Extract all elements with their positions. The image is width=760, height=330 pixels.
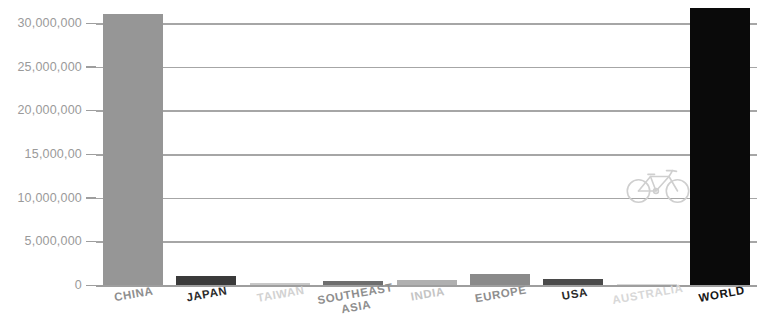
y-axis-tick-label: 5,000,000: [25, 233, 82, 249]
y-axis-tick-mark: [86, 285, 96, 287]
bar: [103, 14, 163, 285]
plot-area: [96, 0, 757, 330]
y-axis-tick-mark: [86, 110, 96, 112]
y-axis-tick-mark: [86, 241, 96, 243]
y-axis-tick-label: 15,000,00: [25, 146, 82, 162]
y-axis-tick-mark: [86, 154, 96, 156]
x-axis-labels: CHINAJAPANTAIWANSOUTHEAST ASIAINDIAEUROP…: [96, 288, 757, 330]
y-axis-tick: 0: [0, 277, 96, 293]
y-axis-tick: 25,000,000: [0, 59, 96, 75]
x-axis-label: SOUTHEAST ASIA: [317, 282, 394, 320]
y-axis-tick-label: 25,000,000: [17, 59, 82, 75]
y-axis-tick-label: 20,000,000: [17, 102, 82, 118]
bicycle-icon: [625, 166, 691, 204]
y-axis-tick: 10,000,000: [0, 190, 96, 206]
y-axis-tick: 30,000,000: [0, 15, 96, 31]
bar-chart: 05,000,00010,000,00015,000,0020,000,0002…: [0, 0, 760, 330]
y-axis-tick-label: 30,000,000: [17, 15, 82, 31]
y-axis-tick: 15,000,00: [0, 146, 96, 162]
y-axis-tick-mark: [86, 66, 96, 68]
y-axis-tick: 5,000,000: [0, 233, 96, 249]
y-axis: 05,000,00010,000,00015,000,0020,000,0002…: [0, 0, 96, 330]
y-axis-tick-mark: [86, 23, 96, 25]
y-axis-tick-label: 0: [75, 277, 82, 293]
y-axis-tick: 20,000,000: [0, 102, 96, 118]
y-axis-tick-mark: [86, 197, 96, 199]
y-axis-tick-label: 10,000,000: [17, 190, 82, 206]
bar: [690, 8, 750, 285]
